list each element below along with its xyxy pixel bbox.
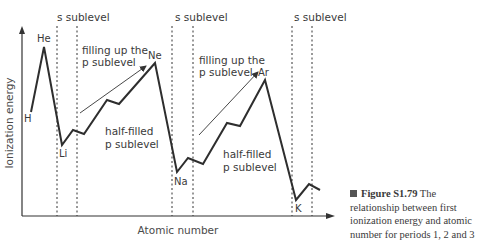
element-label: K [295,203,302,214]
element-label: H [24,113,32,124]
x-axis-arrow-icon [326,213,335,219]
figure-number: Figure S1.79 [361,188,417,199]
annotations: HHeLiNeNaArKs sublevels sublevels sublev… [24,11,347,214]
y-axis-label: Ionization energy [3,77,15,168]
trend-arrow-icon [199,72,258,135]
s-sublevel-label: s sublevel [175,11,228,23]
filling-p-sublevel-label: filling up the [199,54,265,66]
caption-line4: number for periods 1, 2 and 3 [350,229,475,240]
element-label: Na [174,176,188,187]
figure-caption: Figure S1.79 The relationship between fi… [350,187,483,241]
y-axis-arrow-icon [19,26,25,34]
half-filled-p-sublevel-label: half-filled [105,125,154,137]
caption-line3: ionization energy and atomic [350,215,472,226]
s-sublevel-label: s sublevel [57,11,110,23]
half-filled-p-sublevel-label: p sublevel [223,161,277,173]
x-axis-label: Atomic number [138,224,219,236]
filling-p-sublevel-label: filling up the [82,44,148,56]
half-filled-p-sublevel-label: half-filled [223,148,272,160]
axes [19,26,335,219]
filling-p-sublevel-label: p sublevel [82,56,136,68]
half-filled-p-sublevel-label: p sublevel [105,138,159,150]
caption-line2: relationship between first [350,202,457,213]
trend-arrow-icon [80,66,146,113]
element-label: Ne [148,50,162,61]
caption-line1: The [420,188,436,199]
element-label: Li [59,148,67,159]
element-label: He [37,33,51,44]
caption-square-icon [350,190,357,197]
element-label: Ar [258,67,270,78]
filling-p-sublevel-label: p sublevel [199,66,253,78]
s-sublevel-label: s sublevel [294,11,347,23]
